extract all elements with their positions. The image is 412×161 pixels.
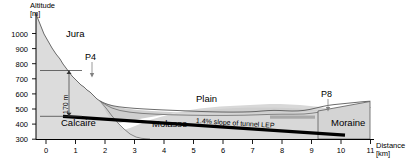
y-tick-label: 600 [4, 90, 28, 99]
y-tick-label: 1000 [4, 30, 28, 39]
x-tick-label: 11 [361, 146, 381, 155]
label-moraine: Moraine [331, 117, 365, 128]
label-jura: Jura [66, 28, 84, 39]
x-tick-label: 4 [154, 146, 174, 155]
x-tick-label: 1 [66, 146, 86, 155]
y-tick-label: 900 [4, 45, 28, 54]
x-tick-label: 10 [331, 146, 351, 155]
geological-cross-section: Altitude [m] Distance [km] 1000 900 800 … [0, 0, 412, 161]
label-depth-170m: 170 m [62, 95, 69, 114]
x-tick-label: 9 [302, 146, 322, 155]
marker-p4: P4 [85, 52, 96, 62]
x-tick-label: 5 [184, 146, 204, 155]
label-plain: Plain [196, 93, 217, 104]
x-tick-label: 6 [213, 146, 233, 155]
y-tick-label: 800 [4, 60, 28, 69]
y-axis-title: Altitude [m] [30, 2, 55, 19]
x-tick-label: 8 [272, 146, 292, 155]
p4-leader-arrow [90, 62, 94, 78]
tunnel-section-marker [270, 116, 315, 119]
y-axis-ticks [32, 34, 36, 140]
x-tick-label: 2 [95, 146, 115, 155]
y-tick-label: 700 [4, 75, 28, 84]
y-axis-unit-text: [m] [30, 10, 55, 18]
x-tick-label: 3 [125, 146, 145, 155]
label-calcaire: Calcaire [61, 117, 96, 128]
cross-section-canvas [0, 0, 412, 161]
marker-p8: P8 [321, 89, 332, 99]
y-tick-label: 400 [4, 120, 28, 129]
x-tick-label: 7 [243, 146, 263, 155]
label-molasse: Molasse [152, 118, 187, 129]
y-tick-label: 500 [4, 105, 28, 114]
x-tick-label: 0 [36, 146, 56, 155]
x-axis-ticks [46, 140, 371, 145]
y-tick-label: 300 [4, 135, 28, 144]
